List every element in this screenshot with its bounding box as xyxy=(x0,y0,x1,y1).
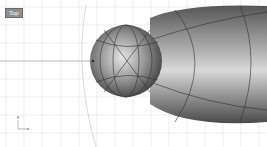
viewport-label[interactable]: Top xyxy=(5,8,23,18)
axis-x-label: x xyxy=(27,126,29,131)
sphere xyxy=(90,25,162,97)
viewport-canvas[interactable] xyxy=(0,0,267,147)
top-viewport[interactable]: Top y x xyxy=(0,0,267,147)
axis-y-label: y xyxy=(17,114,19,119)
